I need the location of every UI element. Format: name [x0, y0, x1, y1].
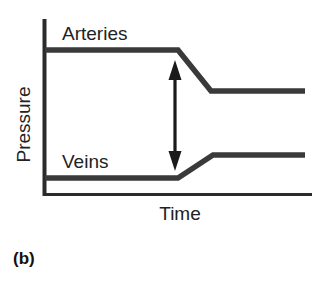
series-label-veins: Veins	[62, 152, 108, 171]
y-axis-label: Pressure	[14, 75, 33, 175]
x-axis-label: Time	[130, 204, 230, 223]
pressure-time-plot	[0, 0, 330, 286]
series-label-arteries: Arteries	[62, 24, 127, 43]
panel-label: (b)	[13, 250, 35, 267]
pressure-difference-arrow-icon	[169, 60, 182, 171]
figure-panel-b: Pressure Time Arteries Veins (b)	[0, 0, 330, 286]
